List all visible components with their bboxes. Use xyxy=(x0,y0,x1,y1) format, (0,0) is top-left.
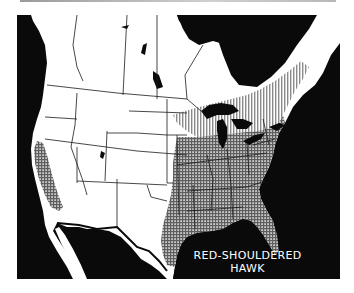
top-rule xyxy=(20,0,336,2)
map-graphic xyxy=(17,15,340,279)
range-map: RED-SHOULDERED HAWK xyxy=(17,15,340,279)
